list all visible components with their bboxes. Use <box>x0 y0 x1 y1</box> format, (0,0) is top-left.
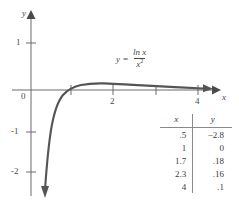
x-axis-arrowhead <box>212 86 221 95</box>
table-cell-x: 2.3 <box>160 167 193 180</box>
table-row: .5 −2.8 <box>160 128 232 142</box>
equation-denominator: x2 <box>134 58 145 69</box>
table-cell-y: .1 <box>193 180 232 193</box>
table-header-row: x y <box>160 114 232 126</box>
equation-equals: = <box>123 54 128 64</box>
table-cell-x: 4 <box>160 180 193 193</box>
curve-right-arrowhead <box>203 84 213 92</box>
y-axis-label: y <box>22 8 26 18</box>
curve-down-arrowhead <box>41 186 49 198</box>
equation-lhs: y <box>116 54 120 64</box>
table-row: 1.7 .18 <box>160 154 232 167</box>
table-cell-x: .5 <box>160 128 193 142</box>
table-header-y: y <box>193 114 232 126</box>
table-header-x: x <box>160 114 193 126</box>
equation-annotation: y = ln x x2 <box>116 48 148 69</box>
equation-denominator-exponent: 2 <box>140 58 143 64</box>
x-tick-label-4: 4 <box>195 96 200 106</box>
origin-label: 0 <box>21 91 26 101</box>
x-tick-label-2: 2 <box>110 96 115 106</box>
equation-fraction: ln x x2 <box>131 48 148 69</box>
y-tick-label-1: 1 <box>16 37 21 47</box>
equation-numerator: ln x <box>131 48 148 58</box>
table-cell-x: 1.7 <box>160 154 193 167</box>
table-row: 2.3 .16 <box>160 167 232 180</box>
figure-container: y x 0 1 -1 -2 2 4 y = ln x x2 x y <box>0 0 239 208</box>
table-cell-y: .16 <box>193 167 232 180</box>
table-cell-y: −2.8 <box>193 128 232 142</box>
table-cell-y: 0 <box>193 141 232 154</box>
y-tick-label-neg2: -2 <box>11 166 19 176</box>
x-axis-label: x <box>222 92 226 102</box>
table-cell-y: .18 <box>193 154 232 167</box>
table-row: 1 0 <box>160 141 232 154</box>
y-axis-arrowhead <box>27 10 36 19</box>
table-row: 4 .1 <box>160 180 232 193</box>
y-tick-label-neg1: -1 <box>11 126 19 136</box>
data-table: x y .5 −2.8 1 0 1.7 .1 <box>160 114 232 193</box>
table-cell-x: 1 <box>160 141 193 154</box>
